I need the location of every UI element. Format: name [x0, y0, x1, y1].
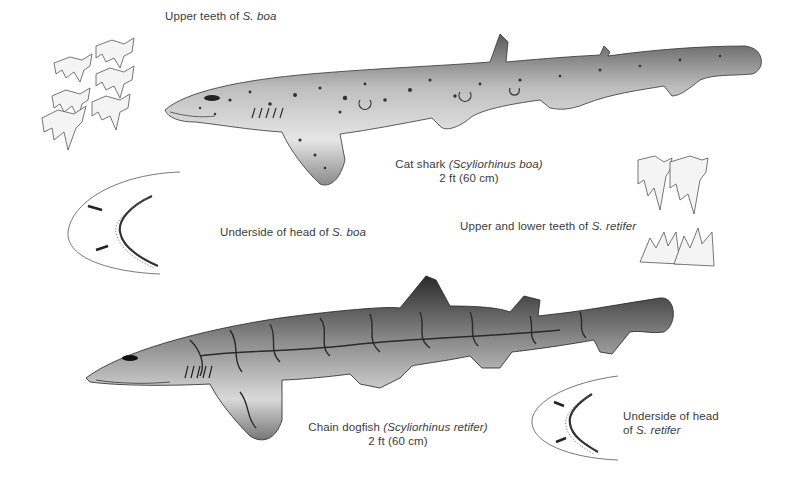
illustration-plate: Upper teeth of S. boa Cat shark (Scylior…	[0, 0, 801, 484]
caption-prefix: Upper and lower teeth of	[460, 220, 592, 232]
caption-scientific-name: (Scyliorhinus boa)	[449, 158, 543, 170]
chain-dogfish-drawing	[86, 276, 673, 440]
caption-species: S. boa	[243, 10, 277, 22]
caption-scientific-name: (Scyliorhinus retifer)	[383, 421, 487, 433]
upper-teeth-boa-drawing	[42, 38, 134, 150]
caption-common-name: Cat shark	[395, 158, 448, 170]
underside-head-retifer-drawing	[532, 376, 618, 460]
caption-species: S. retifer	[592, 220, 636, 232]
underside-head-boa-drawing	[68, 172, 180, 274]
caption-prefix: of	[623, 424, 636, 436]
caption-underside-head-boa: Underside of head of S. boa	[220, 225, 366, 239]
caption-prefix: Upper teeth of	[165, 10, 243, 22]
caption-common-name: Chain dogfish	[308, 421, 383, 433]
caption-size: 2 ft (60 cm)	[380, 171, 558, 185]
caption-chain-dogfish: Chain dogfish (Scyliorhinus retifer) 2 f…	[298, 420, 498, 448]
caption-size: 2 ft (60 cm)	[298, 434, 498, 448]
caption-cat-shark: Cat shark (Scyliorhinus boa) 2 ft (60 cm…	[380, 157, 558, 185]
caption-teeth-retifer: Upper and lower teeth of S. retifer	[460, 219, 636, 233]
caption-species: S. retifer	[636, 424, 680, 436]
caption-upper-teeth-boa: Upper teeth of S. boa	[165, 9, 276, 23]
caption-underside-head-retifer: Underside of head of S. retifer	[623, 409, 719, 437]
caption-species: S. boa	[332, 226, 366, 238]
caption-line1: Underside of head	[623, 409, 719, 423]
caption-prefix: Underside of head of	[220, 226, 332, 238]
teeth-retifer-drawing	[638, 156, 714, 266]
